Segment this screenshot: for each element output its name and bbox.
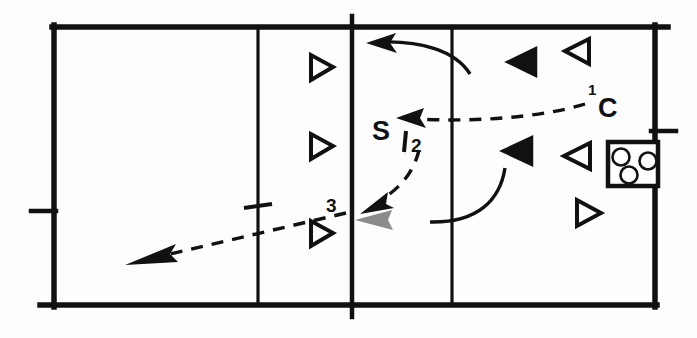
player-filled-left-1 xyxy=(507,48,536,76)
player-open-right-1 xyxy=(311,55,333,80)
ball-cart xyxy=(608,142,658,186)
label-sequence-2: 2 xyxy=(411,135,422,156)
player-filled-left-2 xyxy=(502,137,532,165)
path-coach-toss-arrowhead xyxy=(396,108,426,128)
player-open-left-1 xyxy=(565,39,589,64)
label-coach-sequence-1: 1 xyxy=(588,81,596,98)
player-open-left-2 xyxy=(564,143,590,169)
path-coach-toss xyxy=(418,104,585,120)
volleyball-drill-diagram: 1 C S 2 3 xyxy=(0,0,697,338)
tick-attack-line-left xyxy=(244,204,272,208)
label-sequence-3: 3 xyxy=(326,195,337,216)
label-2-leader-line xyxy=(404,131,406,152)
path-hitter-approach-bottom-arrowhead xyxy=(355,210,393,230)
path-set xyxy=(381,150,419,200)
player-open-right-4 xyxy=(577,200,601,226)
path-attack-arrowhead xyxy=(125,244,178,265)
label-coach: C xyxy=(598,93,618,123)
path-hitter-approach-top xyxy=(382,42,470,74)
path-set-arrowhead xyxy=(360,192,394,214)
players-group xyxy=(311,39,601,246)
player-open-right-3 xyxy=(311,221,333,246)
court-group xyxy=(31,16,676,317)
court-svg: 1 C S 2 3 xyxy=(0,0,697,338)
label-setter: S xyxy=(372,116,390,146)
player-open-right-2 xyxy=(311,134,333,159)
path-hitter-approach-bottom xyxy=(430,168,505,222)
labels-group: 1 C S 2 3 xyxy=(326,81,618,216)
